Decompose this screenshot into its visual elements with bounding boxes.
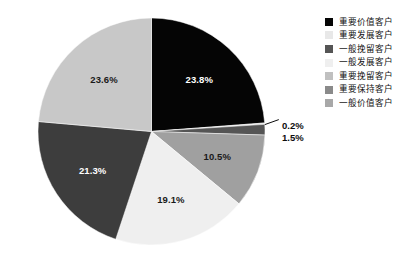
legend-item-label: 重要挽留客户 [339, 72, 393, 81]
legend-item[interactable]: 一般价值客户 [325, 97, 411, 111]
legend-swatch-icon [325, 99, 333, 107]
legend-swatch-icon [325, 86, 333, 94]
legend-swatch-icon [325, 31, 333, 39]
legend-item-label: 一般价值客户 [339, 99, 393, 108]
legend-swatch-icon [325, 59, 333, 67]
slice-value-label: 23.8% [186, 74, 214, 85]
legend-swatch-icon [325, 18, 333, 26]
slice-value-label: 19.1% [157, 194, 185, 205]
legend-item[interactable]: 重要价值客户 [325, 15, 411, 29]
slice-value-label: 21.3% [79, 165, 107, 176]
legend-swatch-icon [325, 45, 333, 53]
slice-value-label: 10.5% [204, 151, 232, 162]
legend-item-label: 一般发展客户 [339, 58, 393, 67]
legend-item[interactable]: 一般挽留客户 [325, 42, 411, 56]
legend-item[interactable]: 重要保持客户 [325, 83, 411, 97]
slice-callout-label: 0.2% [282, 120, 304, 131]
legend-item[interactable]: 重要发展客户 [325, 29, 411, 43]
legend-item[interactable]: 重要挽留客户 [325, 69, 411, 83]
chart-legend: 重要价值客户重要发展客户一般挽留客户一般发展客户重要挽留客户重要保持客户一般价值… [325, 15, 411, 110]
slice-callout-label: 1.5% [282, 132, 304, 143]
legend-swatch-icon [325, 72, 333, 80]
legend-item-label: 重要保持客户 [339, 85, 393, 94]
legend-item-label: 重要发展客户 [339, 31, 393, 40]
legend-item-label: 重要价值客户 [339, 18, 393, 27]
slice-value-label: 23.6% [90, 74, 118, 85]
legend-item[interactable]: 一般发展客户 [325, 56, 411, 70]
legend-item-label: 一般挽留客户 [339, 45, 393, 54]
callout-leader-line [265, 120, 279, 125]
pie-chart-figure: 23.8%10.5%19.1%21.3%23.6% 重要价值客户重要发展客户一般… [0, 0, 414, 269]
